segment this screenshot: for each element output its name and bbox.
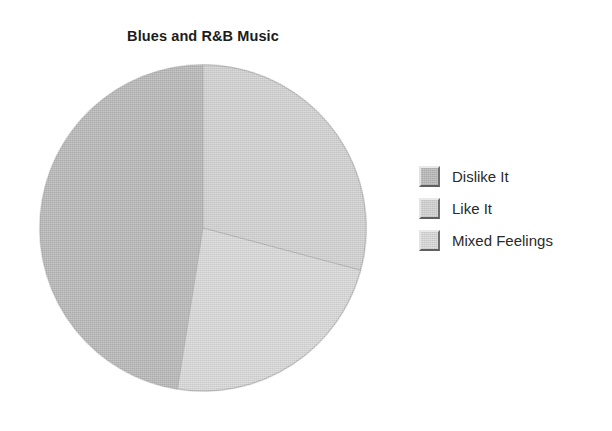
legend-item-like-it[interactable]: Like It xyxy=(419,192,599,224)
pie-chart-svg xyxy=(39,64,367,392)
legend-label-mixed-feelings: Mixed Feelings xyxy=(452,233,553,248)
chart-legend: Dislike It Like It Mixed Feelings xyxy=(419,160,599,256)
pie-chart-plot-area xyxy=(39,64,367,392)
legend-swatch-like-it xyxy=(419,198,440,219)
pie-slice-group xyxy=(40,65,366,391)
chart-title: Blues and R&B Music xyxy=(0,28,406,44)
legend-label-like-it: Like It xyxy=(452,201,492,216)
legend-swatch-dislike-it xyxy=(419,166,440,187)
pie-chart-figure: Blues and R&B Music Dislike It Like It M… xyxy=(0,0,612,431)
pie-slice[interactable] xyxy=(40,65,203,389)
legend-label-dislike-it: Dislike It xyxy=(452,169,509,184)
legend-item-dislike-it[interactable]: Dislike It xyxy=(419,160,599,192)
legend-swatch-mixed-feelings xyxy=(419,230,440,251)
legend-item-mixed-feelings[interactable]: Mixed Feelings xyxy=(419,224,599,256)
